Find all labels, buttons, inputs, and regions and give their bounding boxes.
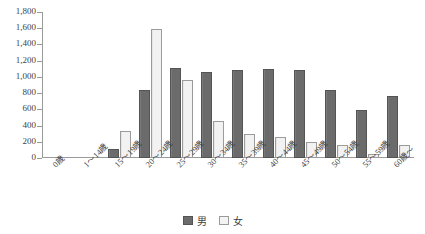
y-axis-tick-label: 1,400 (0, 38, 36, 48)
legend-item-female: 女 (219, 213, 243, 228)
bar-group (294, 12, 317, 158)
y-axis-tick-label: 200 (0, 136, 36, 146)
legend-swatch-female (219, 216, 229, 225)
y-axis-tick-label: 600 (0, 103, 36, 113)
legend-swatch-male (183, 216, 193, 225)
bar-group (46, 12, 69, 158)
bar-group (139, 12, 162, 158)
legend-label-male: 男 (197, 213, 207, 228)
legend-label-female: 女 (233, 213, 243, 228)
bar-male (356, 110, 367, 158)
bar-male (387, 96, 398, 158)
y-axis-tick-label: 1,200 (0, 55, 36, 65)
bar-group (263, 12, 286, 158)
bar-group (77, 12, 100, 158)
y-axis-tick-label: 0 (0, 152, 36, 162)
bar-group (325, 12, 348, 158)
bar-female (151, 29, 162, 158)
y-axis-tick-mark (37, 158, 42, 159)
bar-group (170, 12, 193, 158)
legend-item-male: 男 (183, 213, 207, 228)
bar-group (387, 12, 410, 158)
bar-group (201, 12, 224, 158)
y-axis-tick-label: 800 (0, 87, 36, 97)
y-axis-tick-label: 1,000 (0, 71, 36, 81)
bar-chart: 1,8001,6001,4001,2001,0008006004002000 0… (0, 0, 425, 234)
y-axis-tick-label: 400 (0, 120, 36, 130)
y-axis-tick-label: 1,600 (0, 22, 36, 32)
y-axis-tick-label: 1,800 (0, 6, 36, 16)
bar-group (108, 12, 131, 158)
chart-legend: 男 女 (0, 213, 425, 228)
bar-group (356, 12, 379, 158)
bar-group (232, 12, 255, 158)
